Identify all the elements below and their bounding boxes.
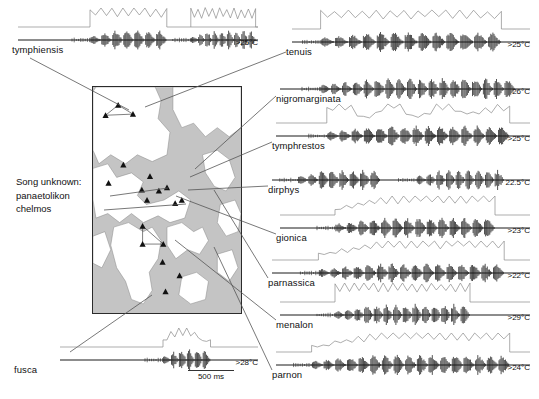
pulse-train [317,304,469,325]
species-label-tymphiensis: tymphiensis [12,44,63,55]
map-marker-triangle [179,197,185,203]
map-marker-triangle [115,102,121,108]
map-marker-layer [93,87,241,313]
temperature-label-parnon: >24°C [486,363,530,372]
envelope-trace [276,333,530,352]
map-marker-triangle [105,180,111,186]
map-marker-triangle [172,200,178,206]
map-marker-triangle [144,197,150,203]
temperature-label-dirphys: 22.5°C [486,178,530,187]
map-marker-triangle [159,259,165,265]
envelope-trace [292,10,530,29]
greece-distribution-map [92,86,242,314]
scale-bar-label: 500 ms [188,372,234,381]
scale-bar: 500 ms [188,370,234,381]
envelope-trace [272,241,530,260]
map-link-1 [106,114,133,115]
map-marker-triangle [139,223,145,229]
temperature-label-tymphrestos: >25°C [486,134,530,143]
species-label-fusca: fusca [14,364,37,375]
map-marker-triangle [156,188,162,194]
song-unknown-note: Song unknown: panaetolikon chelmos [16,175,82,216]
temperature-label-tenuis: >25°C [486,40,530,49]
map-marker-triangle [139,187,145,193]
envelope-trace [60,328,258,347]
temperature-label-nigromarginata: 26°C [486,87,530,96]
temperature-label-menalon: >29°C [486,313,530,322]
temperature-label-gionica: >23°C [486,226,530,235]
figure-root: Song unknown: panaetolikon chelmos 500 m… [0,0,539,399]
temperature-label-tymphiensis: >25°C [214,38,258,47]
map-marker-triangle [120,162,126,168]
species-label-parnon: parnon [272,369,302,380]
map-marker-triangle [176,273,182,279]
note-line-3: chelmos [16,202,82,216]
envelope-trace [280,196,530,215]
envelope-trace [276,104,530,123]
envelope-trace [280,283,530,302]
map-marker-triangle [164,184,170,190]
map-link-5 [143,226,164,244]
note-line-2: panaetolikon [16,189,82,203]
envelope-trace [18,8,258,27]
map-marker-triangle [162,288,168,294]
scale-bar-line [188,370,234,371]
note-line-1: Song unknown: [16,175,82,189]
map-marker-triangle [147,173,153,179]
temperature-label-fusca: >28°C [214,358,258,367]
